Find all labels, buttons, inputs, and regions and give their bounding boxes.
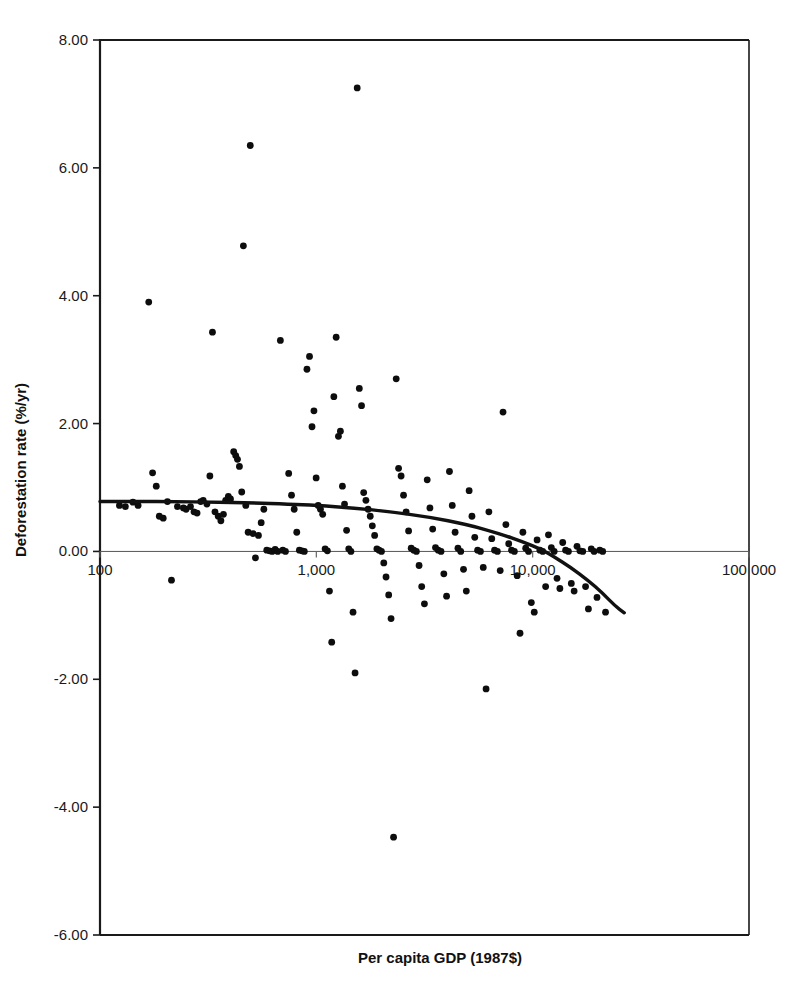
- scatter-point: [469, 513, 476, 520]
- scatter-point: [238, 489, 245, 496]
- scatter-point: [352, 669, 359, 676]
- scatter-point: [160, 515, 167, 522]
- scatter-point: [400, 492, 407, 499]
- scatter-point: [599, 548, 606, 555]
- scatter-point: [354, 85, 361, 92]
- scatter-point: [594, 594, 601, 601]
- scatter-point: [206, 473, 213, 480]
- scatter-point: [424, 476, 431, 483]
- scatter-point: [497, 567, 504, 574]
- scatter-point: [528, 599, 535, 606]
- y-tick-label: 6.00: [59, 159, 88, 176]
- plot-frame: [100, 40, 749, 935]
- scatter-point: [252, 554, 259, 561]
- scatter-point: [494, 548, 501, 555]
- scatter-point: [385, 592, 392, 599]
- scatter-point: [457, 548, 464, 555]
- scatter-point: [460, 566, 467, 573]
- scatter-point: [502, 521, 509, 528]
- scatter-point: [488, 535, 495, 542]
- scatter-point: [398, 473, 405, 480]
- scatter-point: [443, 593, 450, 600]
- scatter-point: [571, 588, 578, 595]
- scatter-point: [234, 456, 241, 463]
- scatter-point: [220, 511, 227, 518]
- scatter-point: [333, 334, 340, 341]
- scatter-point: [556, 585, 563, 592]
- scatter-point: [209, 329, 216, 336]
- scatter-point: [356, 385, 363, 392]
- scatter-point: [477, 548, 484, 555]
- scatter-point: [449, 502, 456, 509]
- scatter-point: [324, 547, 331, 554]
- scatter-point: [568, 580, 575, 587]
- chart-figure: 8.006.004.002.000.00-2.00-4.00-6.00 1001…: [0, 0, 797, 989]
- scatter-point: [311, 407, 318, 414]
- scatter-point: [429, 526, 436, 533]
- scatter-point: [554, 575, 561, 582]
- scatter-point: [255, 532, 262, 539]
- scatter-point: [319, 511, 326, 518]
- scatter-point: [309, 423, 316, 430]
- scatter-point: [480, 564, 487, 571]
- scatter-point: [240, 242, 247, 249]
- scatter-point: [542, 583, 549, 590]
- scatter-point: [217, 517, 224, 524]
- scatter-point: [545, 531, 552, 538]
- scatter-point: [525, 548, 532, 555]
- scatter-point: [350, 609, 357, 616]
- scatter-point: [579, 548, 586, 555]
- y-tick-label: 0.00: [59, 542, 88, 559]
- scatter-point: [371, 532, 378, 539]
- scatter-point: [304, 366, 311, 373]
- data-points: [116, 85, 609, 841]
- y-tick-label: 4.00: [59, 287, 88, 304]
- y-tick-label: 2.00: [59, 415, 88, 432]
- y-tick-label: -6.00: [54, 926, 88, 943]
- scatter-point: [301, 548, 308, 555]
- scatter-point: [514, 572, 521, 579]
- scatter-point: [277, 337, 284, 344]
- scatter-point: [390, 834, 397, 841]
- scatter-point: [369, 522, 376, 529]
- y-axis-title: Deforestation rate (%/yr): [12, 383, 29, 557]
- scatter-point: [565, 548, 572, 555]
- scatter-point: [427, 505, 434, 512]
- scatter-point: [358, 402, 365, 409]
- scatter-point: [591, 548, 598, 555]
- axis-frame: [100, 40, 749, 935]
- scatter-point: [145, 299, 152, 306]
- scatter-point: [511, 548, 518, 555]
- x-axis-ticks: 1001,00010,000100 000: [87, 551, 776, 578]
- x-axis-title: Per capita GDP (1987$): [358, 949, 522, 966]
- scatter-point: [330, 393, 337, 400]
- scatter-point: [168, 577, 175, 584]
- scatter-point: [388, 615, 395, 622]
- fit-curve: [100, 502, 624, 613]
- scatter-point: [380, 560, 387, 567]
- scatter-point: [405, 528, 412, 535]
- y-tick-label: -2.00: [54, 670, 88, 687]
- scatter-point: [485, 508, 492, 515]
- scatter-point: [149, 469, 156, 476]
- scatter-point: [363, 497, 370, 504]
- scatter-point: [306, 353, 313, 360]
- scatter-point: [367, 513, 374, 520]
- scatter-point: [395, 465, 402, 472]
- scatter-point: [421, 600, 428, 607]
- scatter-point: [463, 588, 470, 595]
- x-tick-label: 1,000: [298, 561, 336, 578]
- scatter-point: [505, 540, 512, 547]
- trend-curve: [100, 502, 624, 613]
- scatter-point: [466, 487, 473, 494]
- scatter-point: [260, 506, 267, 513]
- scatter-point: [440, 570, 447, 577]
- scatter-point: [285, 470, 292, 477]
- scatter-point: [339, 483, 346, 490]
- scatter-point: [582, 583, 589, 590]
- scatter-point: [258, 519, 265, 526]
- scatter-point: [517, 630, 524, 637]
- scatter-point: [418, 583, 425, 590]
- scatter-point: [519, 529, 526, 536]
- scatter-point: [153, 483, 160, 490]
